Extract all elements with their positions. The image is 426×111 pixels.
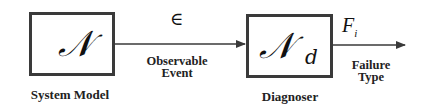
system-model-box: 𝒩 [29,12,115,76]
failure-type-line2: Type [336,71,406,83]
failure-symbol-subscript: i [354,27,357,39]
diagnoser-label: Diagnoser [240,91,340,103]
diagnoser-symbol: 𝒩 [259,25,293,67]
system-model-label: System Model [14,89,126,101]
block-diagram: 𝒩 System Model ∈ Observable Event 𝒩 d Di… [0,0,426,111]
diagnoser-box: 𝒩 d [246,14,333,78]
system-model-symbol: 𝒩 [58,23,92,65]
failure-symbol-f: F [342,14,354,36]
failure-type-label: Failure Type [336,59,406,83]
observable-event-label: Observable Event [130,55,224,79]
observable-event-line2: Event [130,67,224,79]
epsilon-symbol: ∈ [170,8,183,29]
failure-symbol: Fi [342,14,357,39]
diagnoser-subscript: d [305,45,318,69]
